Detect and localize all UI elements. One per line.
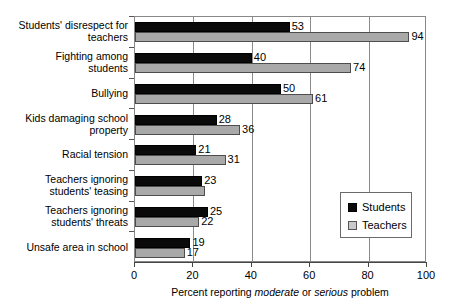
category-axis-labels: Students' disrespect for teachersFightin… — [0, 16, 130, 262]
bar-teachers — [135, 217, 199, 227]
legend-label-teachers: Teachers — [362, 219, 407, 231]
chart-legend: Students Teachers — [340, 192, 412, 238]
y-axis-tick — [129, 47, 134, 48]
category-label: Kids damaging school property — [0, 112, 128, 136]
bar-value-label: 31 — [228, 154, 240, 165]
bar-value-label: 74 — [353, 62, 365, 73]
x-axis-tick — [134, 262, 135, 267]
x-axis-tick-label: 20 — [172, 269, 212, 281]
y-axis-tick — [129, 139, 134, 140]
x-axis-tick-label: 80 — [348, 269, 388, 281]
bar-value-label: 23 — [204, 175, 216, 186]
y-axis-tick — [129, 16, 134, 17]
gridline — [310, 17, 311, 261]
category-label: Students' disrespect for teachers — [0, 19, 128, 43]
y-axis-tick — [129, 201, 134, 202]
bar-value-label: 40 — [254, 52, 266, 63]
bar-students — [135, 53, 252, 63]
bar-students — [135, 176, 202, 186]
bar-teachers — [135, 94, 313, 104]
bar-value-label: 61 — [315, 93, 327, 104]
x-axis-tick-label: 60 — [289, 269, 329, 281]
bar-value-label: 28 — [219, 114, 231, 125]
category-label: Teachers ignoring students' threats — [0, 204, 128, 228]
category-label: Unsafe area in school — [0, 241, 128, 253]
x-axis-tick — [368, 262, 369, 267]
bar-value-label: 94 — [411, 31, 423, 42]
bar-value-label: 50 — [283, 83, 295, 94]
x-axis-tick — [426, 262, 427, 267]
x-axis-line — [134, 262, 426, 263]
bar-students — [135, 22, 290, 32]
x-axis-tick-label: 0 — [114, 269, 154, 281]
category-label: Racial tension — [0, 148, 128, 160]
x-axis-title: Percent reporting moderate or serious pr… — [134, 286, 426, 298]
legend-swatch-students-icon — [348, 203, 357, 212]
bar-students — [135, 207, 208, 217]
y-axis-tick — [129, 231, 134, 232]
bar-students — [135, 145, 196, 155]
category-label: Teachers ignoring students' teasing — [0, 173, 128, 197]
bar-value-label: 36 — [242, 124, 254, 135]
bar-value-label: 22 — [201, 216, 213, 227]
bar-teachers — [135, 32, 409, 42]
bar-value-label: 21 — [198, 144, 210, 155]
x-axis-tick — [251, 262, 252, 267]
bar-students — [135, 238, 190, 248]
x-axis-tick-label: 100 — [406, 269, 446, 281]
bar-value-label: 53 — [292, 21, 304, 32]
x-axis-tick — [309, 262, 310, 267]
legend-label-students: Students — [362, 201, 405, 213]
category-label: Bullying — [0, 87, 128, 99]
bar-teachers — [135, 186, 205, 196]
bar-students — [135, 84, 281, 94]
category-label: Fighting among students — [0, 50, 128, 74]
y-axis-tick — [129, 170, 134, 171]
y-axis-tick — [129, 108, 134, 109]
x-axis-tick-label: 40 — [231, 269, 271, 281]
x-axis-tick — [192, 262, 193, 267]
bar-chart: Students' disrespect for teachersFightin… — [0, 0, 460, 308]
legend-item-teachers: Teachers — [348, 216, 411, 234]
bar-value-label: 17 — [187, 247, 199, 258]
bar-teachers — [135, 63, 351, 73]
bar-teachers — [135, 155, 226, 165]
bar-teachers — [135, 248, 185, 258]
y-axis-tick — [129, 78, 134, 79]
bar-teachers — [135, 125, 240, 135]
legend-item-students: Students — [348, 198, 411, 216]
gridline — [252, 17, 253, 261]
bar-students — [135, 115, 217, 125]
legend-swatch-teachers-icon — [348, 221, 357, 230]
